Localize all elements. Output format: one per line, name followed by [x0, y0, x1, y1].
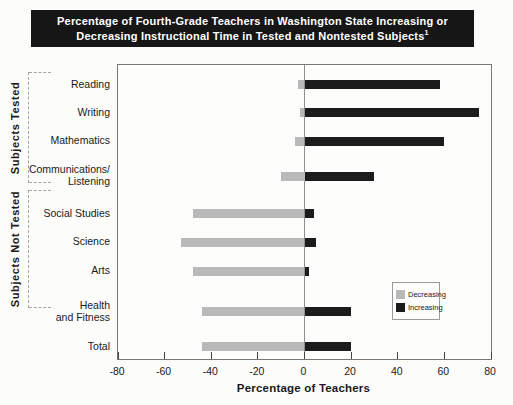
x-tick-80 — [491, 352, 492, 359]
decreasing-bar-mathematics — [295, 137, 304, 146]
legend-label: Increasing — [408, 303, 443, 312]
chart-title-line1: Percentage of Fourth-Grade Teachers in W… — [57, 14, 448, 28]
x-tick-label--40: -40 — [203, 365, 218, 377]
legend-item-decreasing: Decreasing — [396, 290, 436, 299]
x-tick--20 — [257, 352, 258, 359]
decreasing-bar-arts — [193, 267, 305, 276]
chart-title-line2-text: Decreasing Instructional Time in Tested … — [76, 30, 424, 42]
x-tick-label-80: 80 — [484, 365, 496, 377]
category-label-health: Health and Fitness — [6, 299, 110, 323]
decreasing-bar-health — [202, 307, 305, 316]
increasing-bar-health — [305, 307, 352, 316]
x-tick--80 — [118, 352, 119, 359]
category-label-mathematics: Mathematics — [6, 134, 110, 146]
increasing-bar-writing — [305, 108, 480, 117]
x-tick-label-40: 40 — [391, 365, 403, 377]
chart-title-line2: Decreasing Instructional Time in Tested … — [76, 29, 428, 43]
category-label-communications: Communications/ Listening — [6, 163, 110, 187]
x-tick-label--20: -20 — [249, 365, 264, 377]
decreasing-swatch-icon — [396, 290, 405, 299]
x-tick--40 — [211, 352, 212, 359]
legend-item-increasing: Increasing — [396, 303, 436, 312]
category-label-total: Total — [6, 340, 110, 352]
x-tick-20 — [351, 352, 352, 359]
increasing-bar-communications — [305, 172, 375, 181]
category-label-reading: Reading — [6, 78, 110, 90]
x-tick--60 — [164, 352, 165, 359]
group-label-subjects-tested: Subjects Tested — [9, 82, 21, 175]
decreasing-bar-reading — [298, 80, 305, 89]
category-label-writing: Writing — [6, 106, 110, 118]
category-label-science: Science — [6, 235, 110, 247]
increasing-swatch-icon — [396, 303, 405, 312]
x-tick-label--80: -80 — [109, 365, 124, 377]
increasing-bar-science — [305, 238, 317, 247]
legend-label: Decreasing — [408, 290, 446, 299]
increasing-bar-social — [305, 209, 314, 218]
x-tick-40 — [397, 352, 398, 359]
x-tick-0 — [304, 352, 305, 359]
bracket-cap — [29, 190, 51, 191]
bracket-cap — [29, 72, 51, 73]
x-tick-label--60: -60 — [156, 365, 171, 377]
chart-canvas: Percentage of Fourth-Grade Teachers in W… — [0, 0, 513, 405]
legend: DecreasingIncreasing — [392, 282, 440, 320]
decreasing-bar-total — [202, 342, 305, 351]
category-label-social: Social Studies — [6, 207, 110, 219]
x-tick-60 — [444, 352, 445, 359]
decreasing-bar-social — [193, 209, 305, 218]
increasing-bar-mathematics — [305, 137, 445, 146]
increasing-bar-total — [305, 342, 352, 351]
increasing-bar-reading — [305, 80, 440, 89]
decreasing-bar-communications — [281, 172, 304, 181]
x-tick-label-0: 0 — [301, 365, 307, 377]
increasing-bar-arts — [305, 267, 310, 276]
x-tick-label-20: 20 — [344, 365, 356, 377]
chart-title: Percentage of Fourth-Grade Teachers in W… — [31, 10, 474, 47]
footnote-marker: 1 — [425, 29, 429, 36]
x-tick-label-60: 60 — [438, 365, 450, 377]
category-label-arts: Arts — [6, 264, 110, 276]
decreasing-bar-science — [181, 238, 305, 247]
x-axis-title: Percentage of Teachers — [117, 382, 490, 394]
